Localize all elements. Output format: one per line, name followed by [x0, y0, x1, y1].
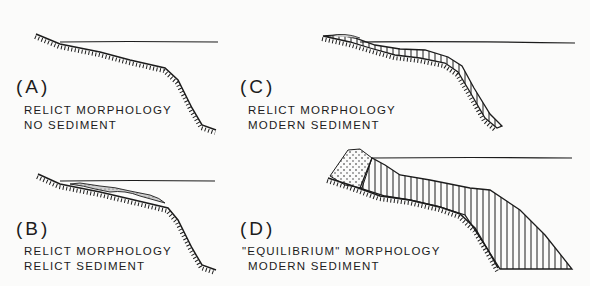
sea-level-line [60, 42, 218, 43]
panel-c-caption-line2: MODERN SEDIMENT [248, 118, 380, 133]
panel-c-letter: (C) [240, 76, 275, 98]
sea-level-line [372, 158, 572, 159]
panel-c-caption-line1: RELICT MORPHOLOGY [248, 103, 396, 118]
panel-a-caption-line2: NO SEDIMENT [24, 118, 117, 133]
panel-d-letter: (D) [240, 218, 275, 240]
panel-a-letter: (A) [16, 76, 50, 98]
panel-d-caption-line2: MODERN SEDIMENT [248, 259, 380, 274]
panel-b-caption-line1: RELICT MORPHOLOGY [24, 244, 172, 259]
panel-d-caption-line1: "EQUILIBRIUM" MORPHOLOGY [242, 244, 441, 259]
panel-b-letter: (B) [16, 218, 50, 240]
panel-b-caption-line2: RELICT SEDIMENT [24, 259, 145, 274]
sea-level-line [60, 181, 215, 182]
panel-a-caption-line1: RELICT MORPHOLOGY [24, 103, 172, 118]
sea-level-line [360, 42, 575, 43]
